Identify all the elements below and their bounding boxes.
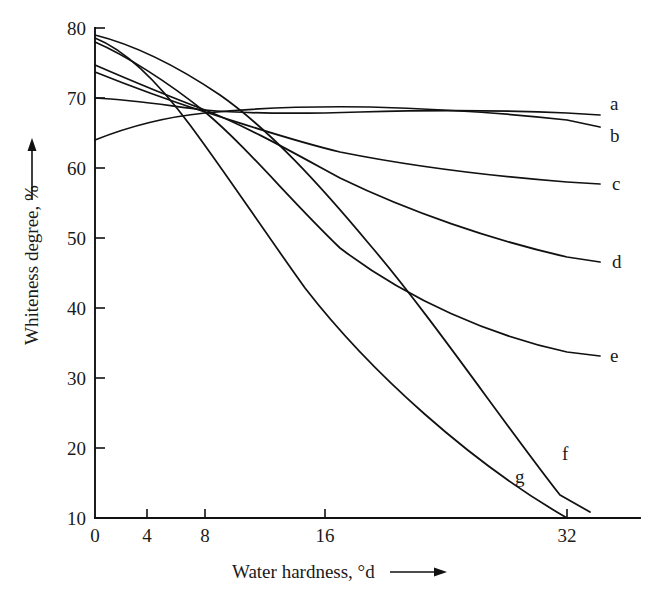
x-tick-label-4: 4 [142, 525, 152, 546]
curve-d [95, 65, 600, 262]
y-tick-label-30: 30 [67, 368, 86, 389]
y-tick-label-70: 70 [67, 88, 86, 109]
curve-g [95, 38, 567, 518]
y-axis-title: Whiteness degree, % [21, 185, 42, 345]
curve-e [95, 42, 600, 356]
curve-label-e: e [610, 345, 618, 366]
curve-c [95, 72, 600, 184]
chart-figure: 80 70 60 50 40 30 20 10 0 4 8 16 32 [0, 0, 649, 590]
curve-label-c: c [612, 173, 620, 194]
y-tick-label-50: 50 [67, 228, 86, 249]
y-tick-label-40: 40 [67, 298, 86, 319]
y-axis-arrow-head-icon [28, 138, 37, 151]
x-axis-title-group: Water hardness, °d [232, 561, 447, 582]
curves-group [95, 35, 600, 518]
axis-group [95, 28, 640, 518]
curve-label-b: b [610, 125, 620, 146]
curve-label-d: d [612, 251, 622, 272]
curve-labels-group: a b c d e f g [515, 93, 622, 487]
y-tick-label-10: 10 [67, 508, 86, 529]
x-tick-label-32: 32 [558, 525, 577, 546]
x-axis-arrow-head-icon [434, 568, 447, 577]
x-tick-group [147, 509, 567, 518]
y-tick-label-80: 80 [67, 18, 86, 39]
x-tick-labels: 0 4 8 16 32 [90, 525, 576, 546]
y-tick-labels: 80 70 60 50 40 30 20 10 [67, 18, 86, 529]
whiteness-vs-hardness-chart: 80 70 60 50 40 30 20 10 0 4 8 16 32 [0, 0, 649, 590]
x-tick-label-8: 8 [200, 525, 210, 546]
x-tick-label-16: 16 [316, 525, 335, 546]
x-tick-label-0: 0 [90, 525, 100, 546]
curve-label-g: g [515, 466, 525, 487]
y-axis-title-group: Whiteness degree, % [21, 138, 42, 345]
y-tick-label-60: 60 [67, 158, 86, 179]
y-tick-group [95, 28, 105, 448]
curve-label-f: f [562, 443, 569, 464]
x-axis-title: Water hardness, °d [232, 561, 375, 582]
y-tick-label-20: 20 [67, 438, 86, 459]
curve-label-a: a [610, 93, 619, 114]
